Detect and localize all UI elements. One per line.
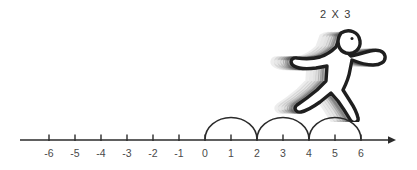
tick-labels: -6 -5 -4 -3 -2 -1 0 1 2 3 4 5 6 [44, 147, 364, 159]
tick-label: 1 [228, 147, 234, 159]
tick-label: 0 [202, 147, 208, 159]
tick-label: -2 [148, 147, 157, 159]
number-line-axis-group: -6 -5 -4 -3 -2 -1 0 1 2 3 4 5 6 [0, 0, 417, 170]
tick-label: 3 [280, 147, 286, 159]
number-line-diagram: 2 X 3 [0, 0, 417, 170]
tick-label: -4 [96, 147, 105, 159]
tick-label: -3 [122, 147, 131, 159]
tick-label: 2 [254, 147, 260, 159]
axis-line [20, 136, 396, 144]
tick-label: 5 [332, 147, 338, 159]
axis-arrowhead [388, 136, 396, 144]
tick-label: 4 [306, 147, 312, 159]
tick-label: 6 [358, 147, 364, 159]
tick-label: -1 [174, 147, 183, 159]
tick-label: -5 [70, 147, 79, 159]
tick-label: -6 [44, 147, 53, 159]
